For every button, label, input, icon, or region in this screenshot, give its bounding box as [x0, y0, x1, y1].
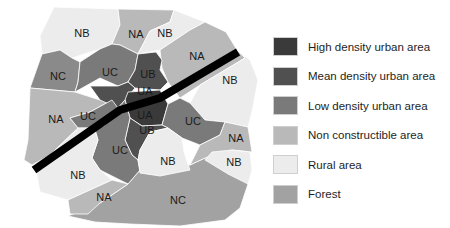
region-label-nb: NB [222, 74, 237, 86]
region-label-na: NA [48, 113, 64, 125]
legend-swatch [273, 126, 298, 145]
legend-item-non-constructible: Non constructible area [273, 121, 435, 151]
legend-label: High density urban area [308, 41, 430, 53]
legend-swatch [273, 155, 298, 174]
region-label-na: NA [96, 191, 112, 203]
region-label-nc: NC [50, 70, 66, 82]
region-label-nb: NB [157, 27, 172, 39]
region-label-nb: NB [160, 155, 175, 167]
legend-item-high-density: High density urban area [273, 32, 435, 62]
region-label-na: NA [128, 28, 144, 40]
region-label-nb: NB [226, 156, 241, 168]
region-label-na: NA [228, 132, 244, 144]
region-label-ub: UB [140, 68, 155, 80]
legend-swatch [273, 96, 298, 115]
legend-label: Low density urban area [308, 100, 428, 112]
legend-label: Rural area [308, 159, 362, 171]
region-label-uc: UC [112, 144, 128, 156]
legend-swatch [273, 185, 298, 204]
region-label-ua: UA [137, 85, 153, 97]
region-label-nb: NB [74, 27, 89, 39]
region-label-ub: UB [139, 124, 154, 136]
legend-swatch [273, 67, 298, 86]
region-label-ua: UA [137, 109, 153, 121]
legend-label: Mean density urban area [308, 70, 435, 82]
region-label-nb: NB [70, 169, 85, 181]
legend-item-mean-density: Mean density urban area [273, 62, 435, 92]
legend-label: Non constructible area [308, 129, 423, 141]
region-label-uc: UC [185, 115, 201, 127]
legend-label: Forest [308, 188, 341, 200]
zoning-map: NBNANBNANBNCUCUBUAUAUBNAUCUCUCNANBNBNBNA… [0, 0, 260, 228]
legend: High density urban area Mean density urb… [273, 32, 435, 209]
legend-item-rural: Rural area [273, 150, 435, 180]
region-label-na: NA [189, 50, 205, 62]
legend-item-forest: Forest [273, 180, 435, 210]
region-label-uc: UC [102, 66, 118, 78]
region-label-uc: UC [80, 110, 96, 122]
legend-swatch [273, 37, 298, 56]
legend-item-low-density: Low density urban area [273, 91, 435, 121]
region-label-nc: NC [170, 194, 186, 206]
